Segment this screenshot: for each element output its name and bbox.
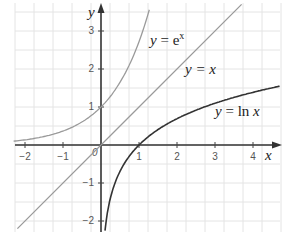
x-tick-label: −2: [19, 151, 31, 162]
function-graph: −2 −1 1 2 3 4 0 3 2 1 −1 −2 x y y = ex y…: [0, 0, 290, 235]
y-tick-label: 2: [88, 63, 94, 74]
exp-label: y = ex: [148, 30, 184, 48]
y-tick-label: −2: [83, 215, 95, 226]
y-axis-label: y: [86, 4, 95, 20]
y-tick-label: 3: [88, 25, 94, 36]
x-tick-label: 2: [174, 151, 180, 162]
y-tick-label: −1: [83, 177, 95, 188]
y-axis-arrow-icon: [98, 3, 105, 13]
x-tick-label: −1: [57, 151, 69, 162]
x-tick-label: 3: [212, 151, 218, 162]
identity-label: y = x: [183, 61, 216, 77]
ln-label: y = ln x: [213, 103, 260, 119]
x-tick-label: 4: [250, 151, 256, 162]
x-axis-label: x: [264, 147, 272, 163]
x-tick-label: 1: [136, 151, 142, 162]
y-tick-label: 1: [88, 101, 94, 112]
